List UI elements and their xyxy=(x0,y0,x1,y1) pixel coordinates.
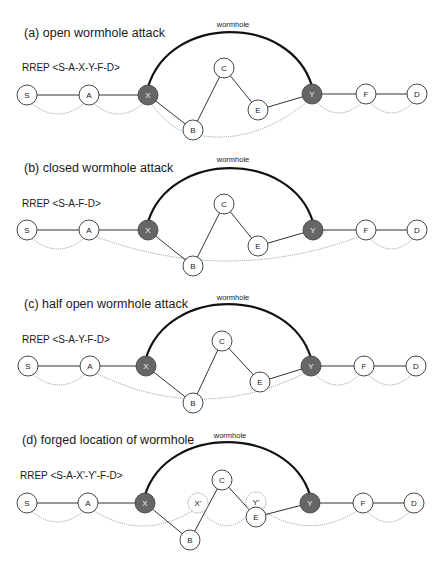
node-label: D xyxy=(411,499,417,508)
node-s: S xyxy=(17,220,37,240)
wormhole-label: wormhole xyxy=(216,293,250,302)
node-label: E xyxy=(257,378,262,387)
route-arc-A-F xyxy=(89,234,366,261)
node-f: F xyxy=(353,493,373,513)
node-label: D xyxy=(413,362,419,371)
node-c: C xyxy=(212,470,232,490)
node-label: S xyxy=(24,91,29,100)
node-label: F xyxy=(364,90,369,99)
node-b: B xyxy=(183,256,203,276)
panel-open-wormhole: (a) open wormhole attack RREP <S-A-X-Y-F… xyxy=(17,20,427,140)
node-c: C xyxy=(214,194,234,214)
panel-closed-wormhole: (b) closed wormhole attack RREP <S-A-F-D… xyxy=(17,155,427,276)
wormhole-label: wormhole xyxy=(213,431,247,440)
route-arc-S-A xyxy=(28,370,90,385)
wormhole-label: wormhole xyxy=(216,20,250,29)
node-label: D xyxy=(414,90,420,99)
node-y: Y xyxy=(302,84,322,104)
rrep-route-label: RREP <S-A-F-D> xyxy=(22,198,101,209)
node-label: B xyxy=(190,126,195,135)
node-d: D xyxy=(406,356,426,376)
node-label: Y' xyxy=(253,498,260,507)
node-label: B xyxy=(187,536,192,545)
node-label: A xyxy=(86,91,92,100)
node-label: Y xyxy=(310,226,316,235)
panel-title: (b) closed wormhole attack xyxy=(24,161,174,175)
node-label: C xyxy=(219,476,225,485)
panel-title: (d) forged location of wormhole xyxy=(22,433,194,447)
wormhole-label: wormhole xyxy=(216,155,250,164)
node-f: F xyxy=(356,220,376,240)
node-e: E xyxy=(246,507,266,527)
node-d: D xyxy=(404,493,424,513)
node-y: Y xyxy=(301,356,321,376)
node-label: Y xyxy=(309,90,315,99)
node-a: A xyxy=(79,220,99,240)
panel-forged-location: (d) forged location of wormhole RREP <S-… xyxy=(17,431,424,550)
node-label: X' xyxy=(195,499,202,508)
panel-title: (a) open wormhole attack xyxy=(24,26,166,40)
rrep-route-label: RREP <S-A-X-Y-F-D> xyxy=(22,62,120,73)
route-arc-S-A xyxy=(27,507,88,522)
panel-title: (c) half open wormhole attack xyxy=(24,297,189,311)
node-y: Y xyxy=(300,493,320,513)
node-b: B xyxy=(180,530,200,550)
node-a: A xyxy=(80,356,100,376)
node-label: Y xyxy=(308,362,314,371)
wormhole-attack-figure: (a) open wormhole attack RREP <S-A-X-Y-F… xyxy=(0,0,446,568)
node-y: Y xyxy=(303,220,323,240)
node-label: A xyxy=(86,226,92,235)
node-e: E xyxy=(248,236,268,256)
node-label: X xyxy=(142,499,148,508)
node-label: D xyxy=(414,226,420,235)
node-label: X xyxy=(145,226,151,235)
wormhole-arc xyxy=(146,304,311,358)
node-x: X xyxy=(138,85,158,105)
node-x: X xyxy=(138,220,158,240)
route-arc-S-A xyxy=(27,234,89,249)
node-a: A xyxy=(79,85,99,105)
node-label: S xyxy=(24,226,29,235)
node-label: C xyxy=(221,64,227,73)
node-f: F xyxy=(354,356,374,376)
node-b: B xyxy=(183,393,203,413)
node-s: S xyxy=(18,356,38,376)
node-label: C xyxy=(221,200,227,209)
node-label: Y xyxy=(307,499,313,508)
node-x: X xyxy=(135,493,155,513)
route-arc-A-Y xyxy=(90,370,311,399)
node-e: E xyxy=(250,372,270,392)
node-label: F xyxy=(361,499,366,508)
node-x: X xyxy=(136,356,156,376)
node-label: S xyxy=(24,499,29,508)
node-c: C xyxy=(214,58,234,78)
rrep-route-label: RREP <S-A-Y-F-D> xyxy=(22,334,110,345)
node-b: B xyxy=(183,120,203,140)
node-label: B xyxy=(190,399,195,408)
node-s: S xyxy=(17,493,37,513)
node-d: D xyxy=(407,84,427,104)
route-arc-A-X xyxy=(89,99,148,114)
node-a: A xyxy=(78,493,98,513)
wormhole-arc xyxy=(148,168,313,222)
wormhole-tunnel-arc xyxy=(146,304,311,358)
node-d: D xyxy=(407,220,427,240)
node-label: E xyxy=(255,242,260,251)
node-c: C xyxy=(212,331,232,351)
rrep-route-label: RREP <S-A-X'-Y'-F-D> xyxy=(20,470,123,481)
node-label: E xyxy=(255,106,260,115)
node-e: E xyxy=(248,100,268,120)
node-label: X xyxy=(143,362,149,371)
node-label: A xyxy=(87,362,93,371)
node-label: B xyxy=(190,262,195,271)
wormhole-tunnel-arc xyxy=(148,168,313,222)
node-s: S xyxy=(17,85,37,105)
node-label: C xyxy=(219,337,225,346)
network-nodes: SAXX'CY'EBYFD xyxy=(17,470,424,550)
panel-half-open-wormhole: (c) half open wormhole attack RREP <S-A-… xyxy=(18,293,426,413)
node-label: E xyxy=(253,513,258,522)
node-label: F xyxy=(362,362,367,371)
node-xp: X' xyxy=(188,493,208,513)
node-label: X xyxy=(145,91,151,100)
node-label: A xyxy=(85,499,91,508)
